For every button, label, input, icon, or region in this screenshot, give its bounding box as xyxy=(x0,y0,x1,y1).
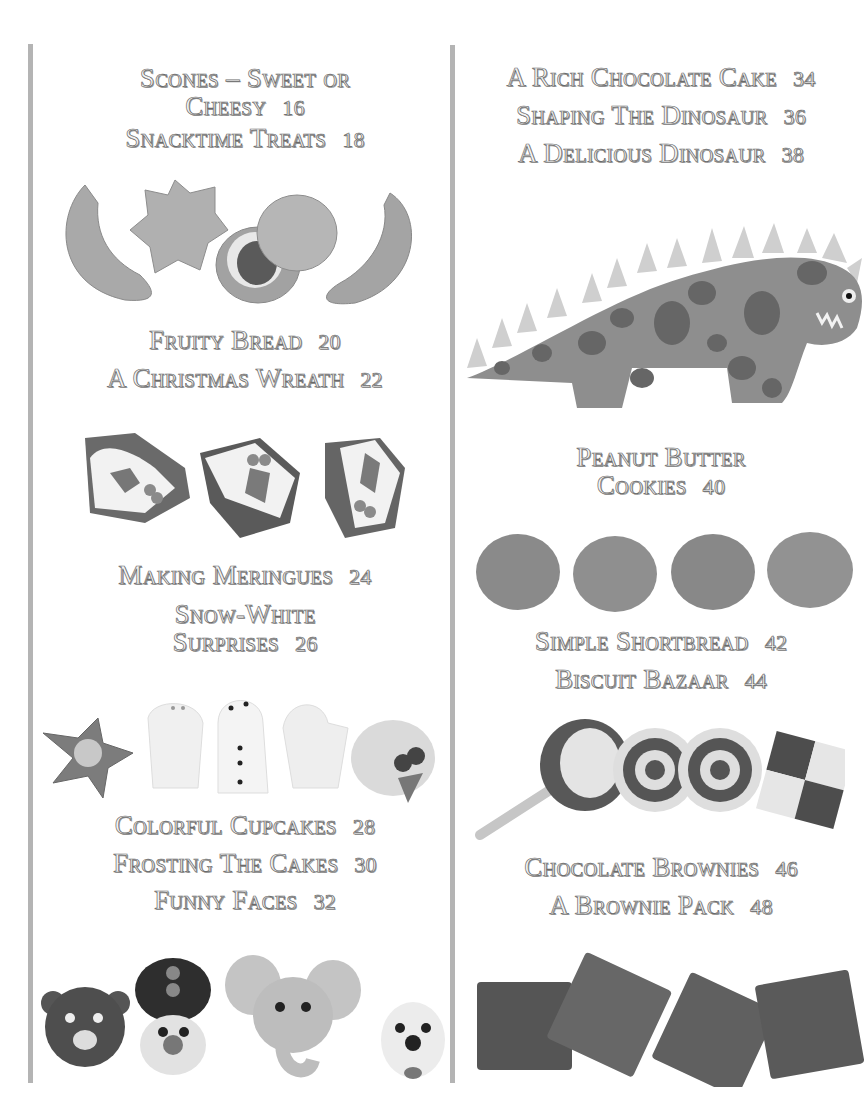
entry-title-line1: Scones – Sweet or xyxy=(40,64,450,92)
crescent-scone xyxy=(326,193,411,304)
entry-title: Funny Faces xyxy=(154,885,298,915)
toc-entry-chocolate-brownies[interactable]: Chocolate Brownies46 xyxy=(455,853,867,883)
page-number: 28 xyxy=(353,814,376,839)
toc-entry-frosting-the-cakes[interactable]: Frosting The Cakes30 xyxy=(40,849,450,879)
page-number: 36 xyxy=(783,104,806,129)
page-number: 16 xyxy=(282,95,305,120)
toc-entry-peanut-butter-cookies[interactable]: Peanut Butter Cookies40 xyxy=(455,443,867,501)
entry-title: Fruity Bread xyxy=(149,325,302,355)
wreath-slice-3 xyxy=(325,438,405,538)
toc-entry-delicious-dinosaur[interactable]: A Delicious Dinosaur38 xyxy=(455,139,867,169)
snowman-meringue xyxy=(218,701,268,794)
entry-title-line1: Snow-White xyxy=(40,600,450,628)
entry-title: A Rich Chocolate Cake xyxy=(506,62,777,92)
toc-entry-funny-faces[interactable]: Funny Faces32 xyxy=(40,886,450,916)
center-column-rule xyxy=(450,45,455,1083)
entry-title: Snacktime Treats xyxy=(125,123,326,153)
page-number: 46 xyxy=(775,856,798,881)
page-number: 42 xyxy=(765,630,788,655)
toc-entry-christmas-wreath[interactable]: A Christmas Wreath22 xyxy=(40,364,450,394)
toc-entry-snow-white-surprises[interactable]: Snow-White Surprises26 xyxy=(40,600,450,658)
page-number: 24 xyxy=(349,564,372,589)
page-number: 44 xyxy=(745,668,768,693)
entry-title: Simple Shortbread xyxy=(535,626,749,656)
entry-title-line1: Peanut Butter xyxy=(455,443,867,471)
toc-entry-scones[interactable]: Scones – Sweet or Cheesy16 xyxy=(40,64,450,122)
toc-entry-rich-chocolate-cake[interactable]: A Rich Chocolate Cake34 xyxy=(455,63,867,93)
entry-title: Frosting The Cakes xyxy=(113,848,338,878)
toc-entry-fruity-bread[interactable]: Fruity Bread20 xyxy=(40,326,450,356)
dog-face-cupcake xyxy=(381,1002,445,1079)
page-number: 34 xyxy=(793,66,816,91)
entry-title: A Delicious Dinosaur xyxy=(518,138,766,168)
page-number: 20 xyxy=(318,329,341,354)
soldier-face-cupcake xyxy=(135,958,211,1075)
round-scone xyxy=(257,195,337,271)
peanut-cookie xyxy=(671,534,755,610)
entry-title: Biscuit Bazaar xyxy=(555,664,729,694)
wreath-slice-1 xyxy=(85,433,190,523)
entry-title-line2: Surprises xyxy=(172,627,278,657)
brownies-photo xyxy=(472,952,867,1087)
entry-title: A Christmas Wreath xyxy=(107,363,344,393)
peanut-cookie xyxy=(573,536,657,612)
peanut-cookie xyxy=(767,532,853,608)
page-number: 48 xyxy=(750,894,773,919)
checker-biscuit xyxy=(756,731,845,829)
entry-title: Making Meringues xyxy=(118,560,333,590)
page-number: 18 xyxy=(342,127,365,152)
toc-entry-shaping-the-dinosaur[interactable]: Shaping The Dinosaur36 xyxy=(455,101,867,131)
page-number: 22 xyxy=(360,367,383,392)
crescent-scone xyxy=(66,185,151,300)
entry-title: Colorful Cupcakes xyxy=(115,810,337,840)
toc-entry-biscuit-bazaar[interactable]: Biscuit Bazaar44 xyxy=(455,665,867,695)
lollipop-stick xyxy=(480,790,550,835)
brownie xyxy=(755,969,865,1079)
toc-entry-making-meringues[interactable]: Making Meringues24 xyxy=(40,561,450,591)
meringues-photo xyxy=(38,688,443,803)
peanut-cookies-photo xyxy=(470,527,865,617)
ghost-meringue xyxy=(148,704,203,788)
biscuit-bazaar-photo xyxy=(475,715,845,845)
ghost-meringue xyxy=(283,705,348,788)
funny-faces-photo xyxy=(38,945,448,1085)
page-number: 32 xyxy=(313,889,336,914)
entry-title: A Brownie Pack xyxy=(549,890,734,920)
swirl-biscuits xyxy=(613,728,762,812)
christmas-wreath-photo xyxy=(75,428,410,543)
toc-entry-simple-shortbread[interactable]: Simple Shortbread42 xyxy=(455,627,867,657)
entry-title: Chocolate Brownies xyxy=(524,852,759,882)
dinosaur-cake-photo xyxy=(462,218,867,418)
star-scone xyxy=(130,180,228,273)
left-column-rule xyxy=(28,44,33,1083)
entry-title-line2: Cheesy xyxy=(185,91,266,121)
page-number: 26 xyxy=(295,631,318,656)
wreath-slice-2 xyxy=(200,438,300,538)
toc-entry-brownie-pack[interactable]: A Brownie Pack48 xyxy=(455,891,867,921)
page-number: 40 xyxy=(703,474,726,499)
toc-entry-colorful-cupcakes[interactable]: Colorful Cupcakes28 xyxy=(40,811,450,841)
toc-entry-snacktime-treats[interactable]: Snacktime Treats18 xyxy=(40,124,450,154)
entry-title: Shaping The Dinosaur xyxy=(516,100,768,130)
page-number: 38 xyxy=(781,142,804,167)
peanut-cookie xyxy=(476,534,560,610)
bear-face-cupcake xyxy=(41,987,130,1067)
elephant-face-cupcake xyxy=(225,955,361,1070)
scones-and-snacktime-photo xyxy=(50,175,430,310)
entry-title-line2: Cookies xyxy=(597,470,687,500)
page-number: 30 xyxy=(354,852,377,877)
